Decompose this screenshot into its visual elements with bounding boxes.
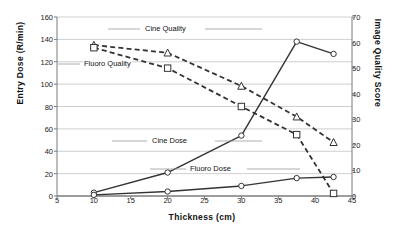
series-marker-fluoro-quality-4 xyxy=(330,190,336,196)
annotation-label-fluoro-quality: Fluoro Quality xyxy=(83,59,132,68)
plot-area xyxy=(0,0,398,231)
series-marker-cine-quality-1 xyxy=(164,49,171,56)
series-marker-fluoro-quality-2 xyxy=(238,103,244,109)
annotation-label-cine-dose: Cine Dose xyxy=(151,136,188,145)
series-marker-fluoro-quality-0 xyxy=(91,44,97,50)
annotation-label-fluoro-dose: Fluoro Dose xyxy=(189,164,232,173)
series-marker-cine-dose-2 xyxy=(239,133,244,138)
series-marker-cine-dose-3 xyxy=(294,39,299,44)
series-marker-cine-dose-1 xyxy=(165,170,170,175)
series-marker-fluoro-dose-1 xyxy=(165,189,170,194)
series-marker-cine-quality-4 xyxy=(330,139,337,146)
series-marker-cine-dose-4 xyxy=(331,51,336,56)
annotation-label-cine-quality: Cine Quality xyxy=(144,24,187,33)
series-marker-fluoro-quality-1 xyxy=(164,65,170,71)
dual-axis-line-chart: Entry Dose (R/min) Image Quality Score T… xyxy=(0,0,398,231)
series-marker-fluoro-dose-0 xyxy=(91,192,96,197)
series-marker-cine-quality-3 xyxy=(293,113,300,120)
series-marker-fluoro-dose-4 xyxy=(331,174,336,179)
series-marker-cine-quality-2 xyxy=(238,82,245,89)
series-marker-fluoro-quality-3 xyxy=(293,131,299,137)
series-marker-fluoro-dose-2 xyxy=(239,183,244,188)
series-marker-fluoro-dose-3 xyxy=(294,175,299,180)
